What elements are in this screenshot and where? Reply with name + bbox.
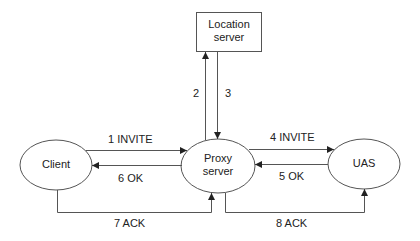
proxy-server-label: Proxy server [181,152,255,178]
edge-label-4: 4 INVITE [270,131,315,144]
edge-label-8: 8 ACK [276,217,307,230]
edge-8 [226,189,365,213]
location-label-line2: server [196,31,262,44]
proxy-label-line2: server [181,165,255,178]
uas-label: UAS [328,157,400,170]
proxy-label-line1: Proxy [181,152,255,165]
edge-label-7: 7 ACK [114,217,145,230]
location-label-line1: Location [196,18,262,31]
client-label: Client [20,158,92,171]
edge-7 [58,190,212,213]
edge-label-1: 1 INVITE [108,133,153,146]
edge-label-6: 6 OK [118,172,143,185]
edge-label-3: 3 [225,87,231,100]
edge-label-2: 2 [193,87,199,100]
location-server-label: Location server [196,18,262,44]
edge-label-5: 5 OK [279,170,304,183]
